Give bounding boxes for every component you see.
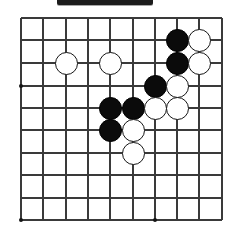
white-stone[interactable] (188, 52, 211, 75)
white-stone[interactable] (166, 75, 189, 98)
grid-line-horizontal-0 (21, 17, 222, 19)
white-stone[interactable] (166, 97, 189, 120)
grid-line-vertical-0 (20, 18, 22, 220)
black-stone[interactable] (99, 119, 122, 142)
white-stone[interactable] (99, 52, 122, 75)
black-stone[interactable] (144, 75, 167, 98)
grid-line-vertical-3 (87, 18, 89, 220)
star-point-0 (19, 84, 23, 88)
white-stone[interactable] (144, 97, 167, 120)
black-stone[interactable] (166, 29, 189, 52)
white-stone[interactable] (55, 52, 78, 75)
grid-line-horizontal-8 (21, 197, 222, 199)
star-point-1 (19, 218, 23, 222)
grid-line-horizontal-3 (21, 85, 222, 87)
white-stone[interactable] (122, 119, 145, 142)
grid-line-horizontal-9 (21, 219, 222, 221)
grid-line-vertical-1 (42, 18, 44, 220)
white-stone[interactable] (188, 29, 211, 52)
grid-line-vertical-2 (65, 18, 67, 220)
grid-line-horizontal-7 (21, 174, 222, 176)
black-stone[interactable] (166, 52, 189, 75)
go-board[interactable] (0, 0, 231, 242)
black-stone[interactable] (99, 97, 122, 120)
star-point-2 (153, 218, 157, 222)
white-stone[interactable] (122, 142, 145, 165)
black-stone[interactable] (122, 97, 145, 120)
go-board-figure (0, 0, 231, 242)
grid-line-vertical-9 (221, 18, 223, 220)
